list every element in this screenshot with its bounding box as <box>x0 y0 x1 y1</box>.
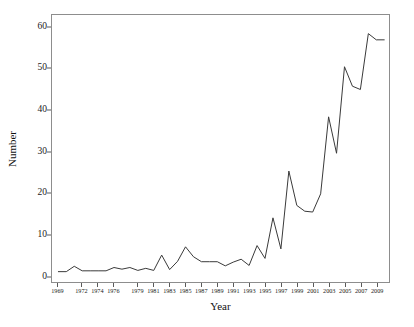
y-tick-label: 50 <box>38 63 48 73</box>
x-tick-label: 1997 <box>275 288 287 294</box>
x-tick-label: 2003 <box>323 288 335 294</box>
x-tick-label: 2001 <box>307 288 319 294</box>
y-tick-label: 30 <box>38 147 48 157</box>
x-tick-label: 1972 <box>75 288 87 294</box>
y-tick-label: 40 <box>38 105 48 115</box>
x-tick-label: 1981 <box>147 288 159 294</box>
x-tick-label: 2007 <box>355 288 367 294</box>
chart-figure: 0102030405060 Number 1969197219741976197… <box>0 0 414 327</box>
x-tick-label: 1987 <box>195 288 207 294</box>
y-tick-label: 60 <box>38 22 48 32</box>
line-series-path <box>58 34 384 272</box>
x-tick-label: 1985 <box>179 288 191 294</box>
x-tick-label: 1999 <box>291 288 303 294</box>
line-series-svg <box>52 15 389 282</box>
y-axis: 0102030405060 Number <box>0 14 51 283</box>
x-tick-label: 1983 <box>163 288 175 294</box>
x-tick-label: 2009 <box>371 288 383 294</box>
x-tick-label: 1993 <box>243 288 255 294</box>
x-tick-label: 1974 <box>91 288 103 294</box>
x-tick-label: 1976 <box>107 288 119 294</box>
plot-area <box>51 14 390 283</box>
x-tick-label: 2005 <box>339 288 351 294</box>
y-tick-label: 10 <box>38 230 48 240</box>
x-tick-label: 1991 <box>227 288 239 294</box>
y-axis-title: Number <box>6 114 18 184</box>
y-tick-label: 20 <box>38 189 48 199</box>
x-axis-title: Year <box>51 300 390 312</box>
x-tick-label: 1969 <box>51 288 63 294</box>
x-tick-label: 1995 <box>259 288 271 294</box>
x-tick-label: 1979 <box>131 288 143 294</box>
x-tick-label: 1989 <box>211 288 223 294</box>
